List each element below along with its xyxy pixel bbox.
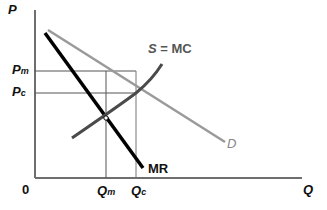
qm-label: Qm xyxy=(97,183,115,198)
mr-mc-intersection xyxy=(104,116,108,120)
pc-label: Pc xyxy=(12,84,26,99)
y-axis-label: P xyxy=(8,2,17,17)
pm-label: Pm xyxy=(12,62,29,77)
origin-label: 0 xyxy=(22,182,29,197)
supply-mc-label: SS = MC = MC xyxy=(148,41,192,56)
qc-label: Qc xyxy=(131,183,146,198)
diagram-canvas xyxy=(0,0,327,210)
x-axis-label: Q xyxy=(303,182,313,197)
demand-label: D xyxy=(227,136,236,151)
mr-label: MR xyxy=(148,161,168,176)
